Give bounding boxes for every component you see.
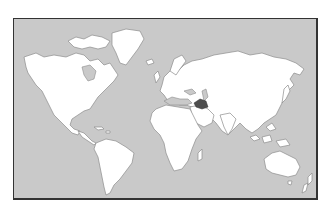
iceland [146, 59, 154, 65]
tasmania [288, 181, 292, 185]
greenland [112, 29, 144, 65]
world-map-frame [13, 18, 318, 200]
caribbean-islands [94, 127, 110, 133]
world-map [14, 19, 316, 198]
australia [264, 151, 300, 177]
central-america [78, 131, 96, 145]
british-isles [154, 71, 160, 83]
continent-south-america [94, 139, 134, 195]
arctic-islands [68, 35, 110, 49]
continent-north-america [24, 53, 118, 135]
new-zealand [302, 173, 312, 193]
madagascar [198, 149, 202, 161]
